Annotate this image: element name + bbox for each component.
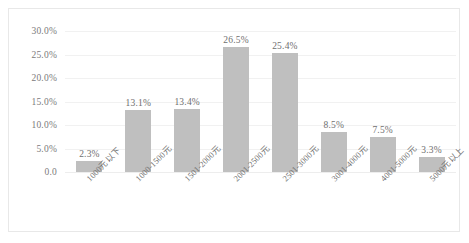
bar-value-label: 25.4% [272, 41, 298, 51]
bar-value-label: 26.5% [223, 35, 249, 45]
chart-frame: 0.05.0%10.0%15.0%20.0%25.0%30.0% 2.3%13.… [8, 8, 460, 232]
y-axis-tick-label: 20.0% [31, 73, 57, 83]
x-axis: 1000元以下1000-1500元1501-2000元2001-2500元250… [65, 175, 456, 231]
gridline [65, 172, 456, 173]
bar-value-label: 7.5% [372, 125, 393, 135]
y-axis-tick-label: 0.0 [45, 167, 57, 177]
bar[interactable] [223, 47, 249, 172]
y-axis-tick-label: 10.0% [31, 120, 57, 130]
bar-value-label: 3.3% [421, 145, 442, 155]
y-axis-tick-label: 15.0% [31, 97, 57, 107]
bar-value-label: 13.1% [126, 98, 152, 108]
bar-value-label: 8.5% [324, 120, 345, 130]
y-axis-tick-label: 30.0% [31, 26, 57, 36]
y-axis-tick-label: 5.0% [36, 144, 57, 154]
bar[interactable] [272, 53, 298, 172]
bar-value-label: 2.3% [79, 149, 100, 159]
bar-value-label: 13.4% [174, 97, 200, 107]
y-axis-tick-label: 25.0% [31, 50, 57, 60]
y-axis: 0.05.0%10.0%15.0%20.0%25.0%30.0% [9, 9, 63, 231]
